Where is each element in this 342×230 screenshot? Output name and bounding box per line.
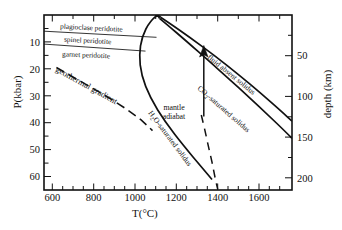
y2-tick-labels: 50 100 150 200 [297, 50, 313, 183]
phase-diagram-figure: 600 800 1000 1200 1400 1600 10 20 30 40 … [0, 0, 342, 230]
y-tick-labels: 10 20 30 40 50 60 [30, 37, 41, 183]
y2-tick-label: 100 [297, 91, 313, 102]
y2-tick-label: 200 [297, 173, 313, 184]
x-tick-label: 600 [44, 192, 60, 203]
depth-axis-title: depth (km) [321, 58, 333, 130]
phase-diagram-plot: 600 800 1000 1200 1400 1600 10 20 30 40 … [0, 0, 342, 230]
x-tick-labels: 600 800 1000 1200 1400 1600 [44, 192, 269, 203]
x-tick-label: 800 [86, 192, 102, 203]
y-tick-label: 50 [30, 144, 41, 155]
y-tick-label: 30 [30, 91, 41, 102]
y2-tick-label: 150 [297, 132, 313, 143]
x-tick-label: 1200 [166, 192, 187, 203]
pressure-axis-title: P(kbar) [11, 57, 23, 127]
mantle-adiabat-label: mantle adiabat [163, 103, 186, 121]
x-tick-label: 1600 [249, 192, 270, 203]
y-tick-label: 10 [30, 37, 41, 48]
y-tick-label: 60 [30, 171, 41, 182]
y-tick-label: 40 [30, 117, 41, 128]
mantle-adiabat-label-line1: mantle [163, 103, 185, 112]
x-tick-label: 1400 [207, 192, 228, 203]
x-tick-label: 1000 [125, 192, 146, 203]
y2-tick-label: 50 [297, 50, 308, 61]
temperature-axis-title: T(°C) [132, 207, 158, 219]
y-tick-label: 20 [30, 64, 41, 75]
mantle-adiabat-label-line2: adiabat [163, 112, 186, 121]
